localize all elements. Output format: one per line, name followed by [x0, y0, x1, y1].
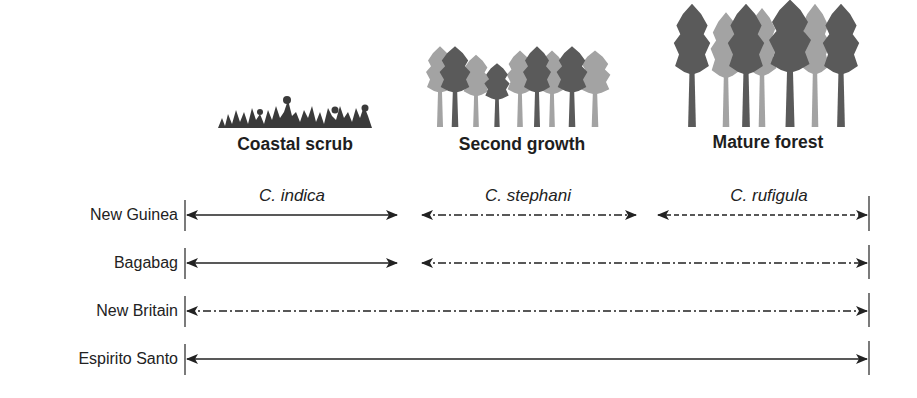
scrub-icon [218, 96, 372, 128]
habitat-range-diagram: Coastal scrub Second growth Mature fores… [0, 0, 917, 398]
habitat-label-coastal-scrub: Coastal scrub [195, 134, 395, 155]
species-label-c-stephani: C. stephani [428, 186, 628, 206]
species-label-c-indica: C. indica [192, 186, 392, 206]
habitat-label-mature-forest: Mature forest [668, 132, 868, 153]
island-label-new-britain: New Britain [96, 302, 178, 320]
island-label-new-guinea: New Guinea [90, 206, 178, 224]
island-label-espirito-santo: Espirito Santo [78, 350, 178, 368]
mature-forest-icon [674, 0, 859, 127]
species-label-c-rufigula: C. rufigula [669, 186, 869, 206]
habitat-label-second-growth: Second growth [422, 134, 622, 155]
island-label-bagabag: Bagabag [114, 254, 178, 272]
axis-bars [185, 196, 869, 375]
second-growth-forest-icon [426, 46, 610, 127]
